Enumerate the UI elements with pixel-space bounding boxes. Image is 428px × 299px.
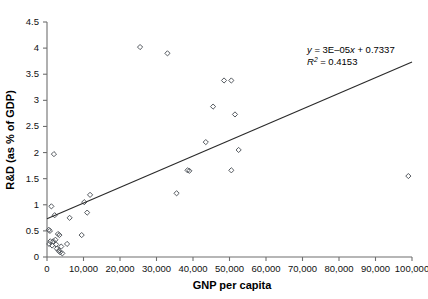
x-tick-label: 70,000 — [288, 263, 317, 274]
data-point — [210, 104, 215, 109]
x-tick-label: 0 — [44, 263, 49, 274]
data-point — [236, 147, 241, 152]
x-tick-label: 90,000 — [361, 263, 390, 274]
y-tick-label: 4.5 — [26, 16, 39, 27]
x-tick-group: 010,00020,00030,00040,00050,00060,00070,… — [44, 257, 428, 274]
y-axis: 00.511.522.533.544.5 — [26, 16, 47, 262]
y-axis-title: R&D (as % of GDP) — [4, 90, 16, 190]
data-point — [49, 204, 54, 209]
data-point — [137, 44, 142, 49]
data-point — [174, 191, 179, 196]
data-point — [406, 173, 411, 178]
x-tick-label: 40,000 — [178, 263, 207, 274]
r-squared-text: R2 = 0.4153 — [307, 56, 357, 67]
x-tick-label: 10,000 — [69, 263, 98, 274]
trendline — [47, 62, 412, 219]
data-point — [87, 192, 92, 197]
x-tick-label: 30,000 — [142, 263, 171, 274]
y-tick-label: 0 — [34, 251, 39, 262]
y-tick-label: 1 — [34, 199, 39, 210]
data-point — [67, 215, 72, 220]
data-point — [85, 210, 90, 215]
data-point — [79, 232, 84, 237]
data-point — [203, 140, 208, 145]
x-axis-title: GNP per capita — [193, 279, 273, 291]
trendline-group — [47, 62, 412, 219]
scatter-chart-figure: 00.511.522.533.544.5 010,00020,00030,000… — [0, 0, 428, 299]
equation-annotation: y = 3E–05x + 0.7337 R2 = 0.4153 — [306, 44, 395, 67]
y-tick-label: 1.5 — [26, 173, 39, 184]
data-point — [229, 78, 234, 83]
y-tick-label: 4 — [34, 42, 39, 53]
chart-canvas: 00.511.522.533.544.5 010,00020,00030,000… — [0, 0, 428, 299]
x-tick-label: 60,000 — [251, 263, 280, 274]
regression-equation-text: y = 3E–05x + 0.7337 — [306, 44, 395, 55]
x-tick-label: 80,000 — [324, 263, 353, 274]
x-axis: 010,00020,00030,00040,00050,00060,00070,… — [44, 257, 428, 274]
y-tick-label: 0.5 — [26, 225, 39, 236]
y-tick-label: 3 — [34, 94, 39, 105]
data-point-group — [46, 44, 411, 255]
x-tick-label: 100,000 — [395, 263, 428, 274]
data-point — [232, 112, 237, 117]
y-tick-label: 3.5 — [26, 68, 39, 79]
data-point — [229, 168, 234, 173]
x-tick-label: 50,000 — [215, 263, 244, 274]
y-tick-group: 00.511.522.533.544.5 — [26, 16, 47, 262]
y-tick-label: 2 — [34, 147, 39, 158]
data-point — [221, 78, 226, 83]
data-point — [165, 51, 170, 56]
x-tick-label: 20,000 — [105, 263, 134, 274]
data-point — [64, 241, 69, 246]
data-point — [51, 152, 56, 157]
y-tick-label: 2.5 — [26, 120, 39, 131]
